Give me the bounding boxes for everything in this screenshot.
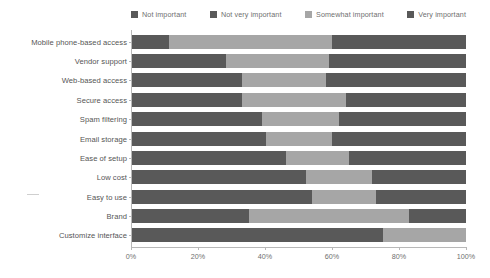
bar-segment[interactable] [329, 54, 466, 68]
x-tick-label: 80% [392, 253, 406, 260]
bar-row [132, 132, 466, 146]
bar-segment[interactable] [132, 54, 149, 68]
legend-swatch-icon [305, 11, 312, 18]
category-label: Web-based access [7, 77, 127, 85]
legend-item-label: Somewhat important [316, 11, 384, 18]
category-tick-mark [129, 177, 132, 178]
bar-segment[interactable] [372, 170, 466, 184]
category-tick-mark [129, 216, 132, 217]
legend-swatch-icon [407, 11, 414, 18]
category-tick-mark [129, 42, 132, 43]
category-label: Mobile phone-based access [7, 39, 127, 47]
bar-segment[interactable] [242, 73, 326, 87]
bar-segment[interactable] [349, 151, 466, 165]
legend-item-3[interactable]: Very important [407, 11, 466, 18]
bar-segment[interactable] [139, 112, 263, 126]
legend-swatch-icon [131, 11, 138, 18]
bar-segment[interactable] [409, 209, 466, 223]
x-tick-mark [265, 247, 266, 250]
x-tick-mark [399, 247, 400, 250]
legend-item-label: Not very important [221, 11, 282, 18]
bar-segment[interactable] [132, 112, 139, 126]
category-tick-mark [129, 197, 132, 198]
bar-row [132, 35, 466, 49]
bar-row [132, 209, 466, 223]
bar-segment[interactable] [169, 35, 333, 49]
bar-segment[interactable] [376, 190, 466, 204]
bar-segment[interactable] [145, 209, 249, 223]
bar-segment[interactable] [286, 151, 349, 165]
bar-segment[interactable] [135, 151, 285, 165]
bar-row [132, 73, 466, 87]
x-tick-label: 0% [126, 253, 136, 260]
x-tick-label: 100% [457, 253, 475, 260]
x-tick-label: 40% [258, 253, 272, 260]
bar-segment[interactable] [383, 228, 467, 242]
bar-segment[interactable] [132, 209, 145, 223]
bar-segment[interactable] [312, 190, 375, 204]
bar-segment[interactable] [135, 170, 305, 184]
category-tick-mark [129, 80, 132, 81]
legend-item-1[interactable]: Not very important [210, 11, 282, 18]
legend-item-0[interactable]: Not important [131, 11, 186, 18]
bar-segment[interactable] [339, 112, 466, 126]
category-tick-mark [129, 100, 132, 101]
bar-segment[interactable] [249, 209, 409, 223]
bar-segment[interactable] [132, 73, 139, 87]
bar-segment[interactable] [135, 190, 312, 204]
x-tick-mark [131, 247, 132, 250]
category-label: Easy to use [7, 194, 127, 202]
bar-segment[interactable] [262, 112, 339, 126]
bar-row [132, 93, 466, 107]
bar-row [132, 228, 466, 242]
category-label: Email storage [7, 136, 127, 144]
bar-segment[interactable] [139, 132, 266, 146]
bar-segment[interactable] [332, 35, 466, 49]
legend-swatch-icon [210, 11, 217, 18]
bar-segment[interactable] [132, 132, 139, 146]
bar-segment[interactable] [306, 170, 373, 184]
bar-row [132, 190, 466, 204]
category-label: Customize interface [7, 232, 127, 240]
x-tick-label: 20% [191, 253, 205, 260]
bar-row [132, 54, 466, 68]
bar-segment[interactable] [346, 93, 466, 107]
category-label: Vendor support [7, 58, 127, 66]
bar-segment[interactable] [139, 93, 243, 107]
legend-item-2[interactable]: Somewhat important [305, 11, 384, 18]
leader-line-artifact [27, 194, 39, 195]
x-tick-mark [198, 247, 199, 250]
x-tick-mark [332, 247, 333, 250]
bar-segment[interactable] [326, 73, 466, 87]
bar-segment[interactable] [332, 132, 466, 146]
bar-row [132, 112, 466, 126]
bar-row [132, 170, 466, 184]
category-tick-mark [129, 158, 132, 159]
x-axis-ticks: 0%20%40%60%80%100% [131, 247, 466, 267]
bar-row [132, 151, 466, 165]
bar-segment[interactable] [132, 228, 383, 242]
category-label: Spam filtering [7, 116, 127, 124]
chart-legend: Not importantNot very importantSomewhat … [131, 8, 466, 22]
category-tick-mark [129, 235, 132, 236]
bar-segment[interactable] [242, 93, 346, 107]
category-label: Ease of setup [7, 155, 127, 163]
bar-segment[interactable] [149, 54, 226, 68]
category-label: Secure access [7, 97, 127, 105]
bar-segment[interactable] [139, 73, 243, 87]
category-axis-labels: Mobile phone-based accessVendor supportW… [5, 30, 127, 247]
category-tick-mark [129, 61, 132, 62]
category-label: Brand [7, 213, 127, 221]
x-tick-mark [466, 247, 467, 250]
category-tick-mark [129, 139, 132, 140]
stacked-bar-chart: Not importantNot very importantSomewhat … [0, 0, 490, 278]
bar-segment[interactable] [132, 35, 169, 49]
legend-item-label: Very important [418, 11, 466, 18]
bar-segment[interactable] [226, 54, 330, 68]
bar-segment[interactable] [266, 132, 333, 146]
category-tick-mark [129, 119, 132, 120]
legend-item-label: Not important [142, 11, 186, 18]
x-tick-label: 60% [325, 253, 339, 260]
bar-segment[interactable] [132, 93, 139, 107]
category-label: Low cost [7, 174, 127, 182]
